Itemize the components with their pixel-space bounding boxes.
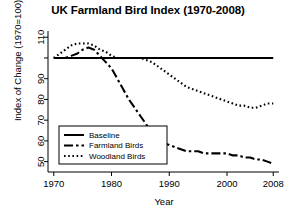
x-tick-label: 1990 [159,178,180,189]
y-tick-label: 60 [36,136,47,147]
x-tick-label: 2008 [263,178,284,189]
series-line [54,43,273,107]
legend-label: Woodland Birds [89,152,145,161]
x-axis: 19701980199020002008 [43,172,284,189]
x-tick-label: 1970 [43,178,64,189]
legend-label: Baseline [89,131,120,140]
chart-figure: UK Farmland Bird Index (1970-2008) Index… [0,0,296,216]
x-tick-label: 1980 [101,178,122,189]
y-tick-label: 110 [36,30,47,45]
x-tick-label: 2000 [216,178,237,189]
chart-legend: BaselineFarmland BirdsWoodland Birds [59,126,167,164]
y-axis: 5060708090110 [36,30,49,172]
plot-area: 5060708090110 19701980199020002008 Basel… [0,0,296,216]
legend-label: Farmland Birds [89,141,143,150]
y-tick-label: 80 [36,94,47,105]
y-tick-label: 50 [36,156,47,167]
y-tick-label: 70 [36,115,47,126]
y-tick-label: 90 [36,73,47,84]
